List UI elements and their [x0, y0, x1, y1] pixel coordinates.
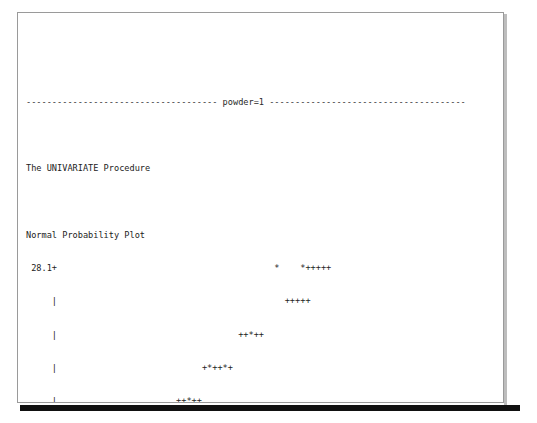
plot-row: | ++*++ — [26, 396, 466, 403]
sas-listing: ------------------------------------- po… — [26, 19, 466, 403]
spacer-line — [26, 197, 466, 208]
group-separator-powder-1: ------------------------------------- po… — [26, 97, 466, 108]
procedure-title: The UNIVARIATE Procedure — [26, 163, 466, 174]
document-frame: ------------------------------------- po… — [17, 12, 504, 403]
spacer-line — [26, 63, 466, 74]
spacer-line — [26, 130, 466, 141]
plot-row: 28.1+ * *+++++ — [26, 263, 466, 274]
plot-row: | ++*++ — [26, 330, 466, 341]
document-shadow-right — [504, 14, 507, 405]
page-root: ------------------------------------- po… — [0, 0, 537, 423]
plot-title-powder-1: Normal Probability Plot — [26, 230, 466, 241]
plot-row: | +*++*+ — [26, 363, 466, 374]
document-shadow-bottom — [20, 405, 520, 411]
plot-row: | +++++ — [26, 296, 466, 307]
